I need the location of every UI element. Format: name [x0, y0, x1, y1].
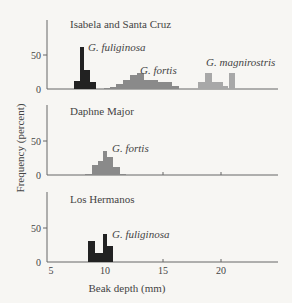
histogram-figure: Frequency (percent) Isabela and Santa Cr…: [0, 0, 292, 303]
y-tick-50: 50: [31, 50, 41, 61]
panel-title: Daphne Major: [70, 105, 134, 117]
x-axis: 5 10 15 20 Beak depth (mm): [49, 265, 227, 295]
label-fuliginosa: G. fuliginosa: [112, 228, 170, 240]
label-fortis: G. fortis: [112, 142, 149, 154]
y-axis-label: Frequency (percent): [14, 103, 27, 192]
bars-magnirostris: [198, 73, 235, 89]
y-tick-0: 0: [36, 170, 41, 181]
bars-fuliginosa: [88, 234, 113, 262]
y-tick-50: 50: [31, 136, 41, 147]
x-axis-label: Beak depth (mm): [89, 282, 166, 295]
bars-fortis: [85, 151, 126, 175]
x-tick-15: 15: [158, 265, 168, 276]
y-tick-0: 0: [36, 84, 41, 95]
x-tick-5: 5: [49, 265, 54, 276]
y-tick-50: 50: [31, 223, 41, 234]
label-fuliginosa: G. fuliginosa: [88, 41, 146, 53]
x-tick-20: 20: [216, 265, 226, 276]
label-fortis: G. fortis: [140, 64, 177, 76]
panel-title: Los Hermanos: [70, 193, 134, 205]
panel-title: Isabela and Santa Cruz: [70, 18, 171, 30]
label-magnirostris: G. magnirostris: [206, 56, 275, 68]
panel-los-hermanos: Los Hermanos 50 0 G. fuliginosa: [31, 192, 278, 268]
panel-daphne-major: Daphne Major 50 0 G. fortis: [31, 105, 278, 181]
x-tick-10: 10: [100, 265, 110, 276]
panel-isabela-santa-cruz: Isabela and Santa Cruz 50 0: [31, 18, 278, 95]
bars-fuliginosa: [74, 47, 96, 89]
y-tick-0: 0: [36, 257, 41, 268]
